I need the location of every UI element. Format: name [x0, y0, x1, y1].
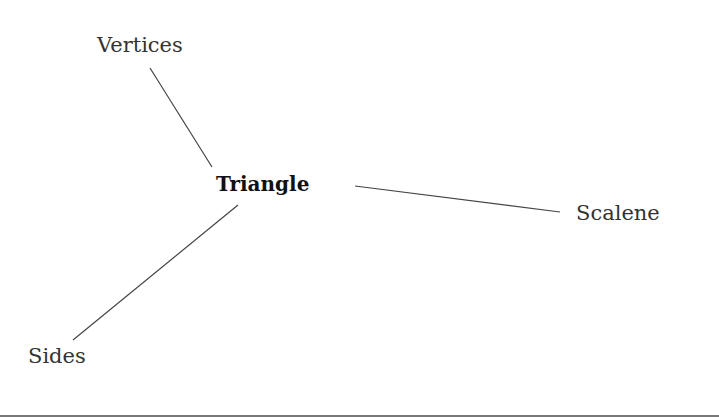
branch-node-scalene: Scalene — [576, 201, 660, 225]
connector-vertices — [150, 68, 212, 167]
connector-sides — [73, 205, 238, 340]
connector-scalene — [355, 186, 560, 212]
mind-map-canvas: Triangle Vertices Scalene Sides — [0, 0, 719, 419]
branch-node-sides: Sides — [28, 344, 86, 368]
bottom-divider — [0, 415, 719, 417]
branch-node-vertices: Vertices — [97, 33, 183, 57]
center-node-triangle: Triangle — [216, 172, 309, 196]
